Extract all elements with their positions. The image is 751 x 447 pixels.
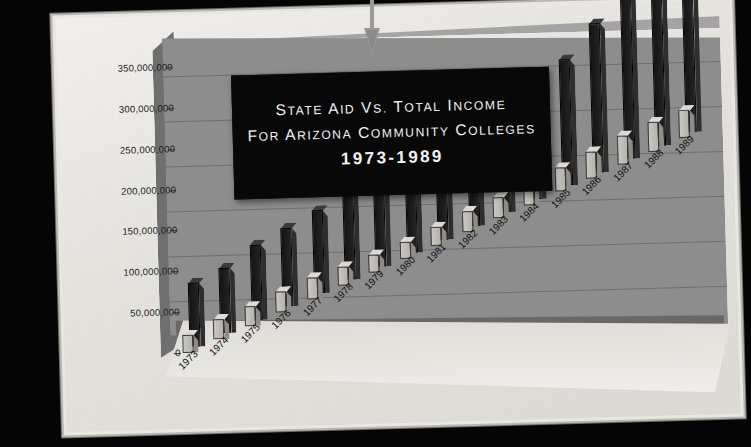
figure-paper: 1973197419751976197719781979198019811982…	[55, 0, 740, 432]
x-axis-label-1976: 1976	[269, 308, 293, 331]
y-axis-tick-label: 200,000,000	[121, 184, 176, 197]
scanned-figure: 1973197419751976197719781979198019811982…	[52, 0, 743, 435]
x-axis-label-1984: 1984	[518, 200, 542, 223]
x-axis-label-1974: 1974	[207, 335, 231, 358]
y-axis-tick-mark	[168, 149, 175, 150]
y-axis-tick-mark	[174, 353, 181, 354]
y-axis-tick-label: 350,000,000	[118, 61, 173, 74]
y-axis-tick-mark	[173, 312, 180, 313]
x-axis-label-1975: 1975	[238, 321, 262, 344]
y-axis-tick-mark	[169, 190, 176, 191]
x-axis-label-1979: 1979	[362, 267, 386, 290]
y-axis-tick-label: 150,000,000	[122, 225, 177, 238]
y-axis-tick-mark	[167, 108, 174, 109]
y-axis-tick-label: 250,000,000	[120, 143, 175, 156]
y-axis: 050,000,000100,000,000150,000,000200,000…	[55, 15, 196, 418]
x-axis-label-1989: 1989	[673, 133, 697, 156]
x-axis-label-1978: 1978	[331, 281, 355, 304]
x-axis-label-1982: 1982	[456, 227, 480, 250]
y-axis-tick-mark	[166, 67, 173, 68]
x-axis-label-1988: 1988	[642, 147, 666, 170]
title-line-1: STATE AID VS. TOTAL INCOME	[275, 95, 506, 119]
x-axis-label-1983: 1983	[487, 214, 511, 237]
y-axis-tick-mark	[171, 271, 178, 272]
x-axis-label-1986: 1986	[580, 173, 604, 196]
title-line-2: FOR ARIZONA COMMUNITY COLLEGES	[247, 119, 536, 145]
chart-title-plaque: STATE AID VS. TOTAL INCOME FOR ARIZONA C…	[231, 67, 552, 200]
y-axis-tick-label: 100,000,000	[123, 265, 178, 278]
y-axis-tick-label: 300,000,000	[119, 102, 174, 115]
x-axis-label-1980: 1980	[394, 254, 418, 277]
x-axis-label-1981: 1981	[425, 241, 449, 264]
y-axis-tick-mark	[170, 231, 177, 232]
chart-page: 1973197419751976197719781979198019811982…	[0, 0, 751, 447]
down-arrow-pointer	[364, 0, 380, 54]
x-axis-label-1987: 1987	[611, 160, 635, 183]
title-line-3: 1973-1989	[341, 147, 444, 170]
x-axis-label-1977: 1977	[300, 294, 324, 317]
